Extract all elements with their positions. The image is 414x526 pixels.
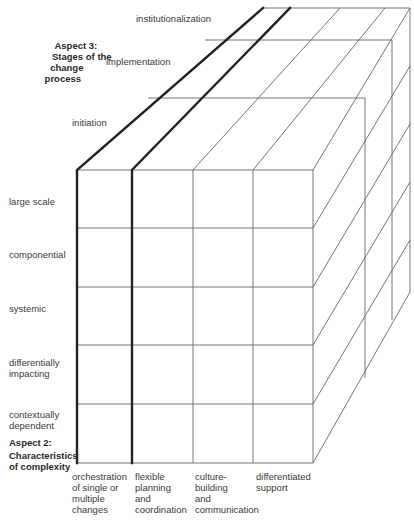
row-label-componential: componential bbox=[9, 249, 66, 260]
row-label-systemic: systemic bbox=[9, 303, 46, 314]
column-label-orchestration: orchestration of single or multiple chan… bbox=[72, 471, 127, 515]
stage-label-implementation: implementation bbox=[106, 56, 170, 67]
column-label-culture-building: culture- building and communication bbox=[195, 471, 259, 515]
row-label-large-scale: large scale bbox=[9, 196, 55, 207]
column-label-flexible-planning: flexible planning and coordination bbox=[135, 471, 187, 515]
aspect2-title: Aspect 2: Characteristics of complexity bbox=[9, 437, 78, 472]
row-label-contextually-dependent: contextually dependent bbox=[9, 409, 59, 431]
stage-label-initiation: initiation bbox=[72, 117, 107, 128]
aspect3-title: Aspect 3: Stages of the change process bbox=[36, 40, 112, 84]
column-label-differentiated-support: differentiated support bbox=[256, 471, 311, 493]
row-label-differentially-impacting: differentially impacting bbox=[9, 357, 60, 379]
stage-label-institutionalization: institutionalization bbox=[136, 13, 211, 24]
